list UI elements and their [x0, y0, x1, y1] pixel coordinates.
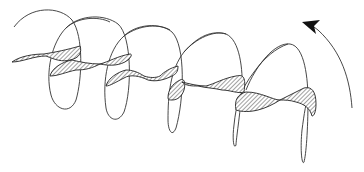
- helix-diagram: [0, 0, 364, 172]
- ribbon-segment-4: [235, 92, 280, 112]
- ribbon-segments: [12, 46, 316, 116]
- ribbon-segment-1: [12, 46, 81, 62]
- curved-arrow-line: [314, 27, 352, 108]
- ribbon-segment-2: [100, 54, 131, 65]
- ribbon-segment-3b: [182, 76, 245, 93]
- ribbon-segment-2b: [106, 66, 178, 86]
- diagram-canvas: [0, 0, 364, 172]
- curved-arrow-icon: [302, 20, 320, 34]
- helix-loop-3: [124, 26, 226, 133]
- helix-loops: [14, 10, 310, 163]
- ribbon-segment-4b: [280, 88, 316, 116]
- ribbon-segment-1b: [50, 60, 100, 76]
